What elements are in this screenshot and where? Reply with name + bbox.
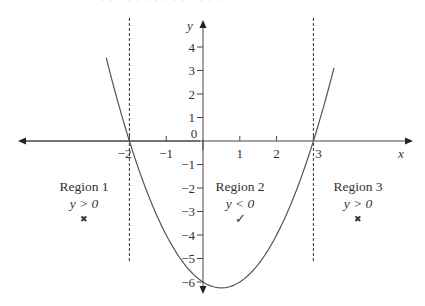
- y-tick-label: −1: [181, 157, 195, 172]
- y-tick-label: −5: [181, 251, 195, 266]
- graph-diagram: −2−10123 4321−1−2−3−4−5−6 x y Region 1 y…: [0, 0, 425, 306]
- x-tick-label: 3: [315, 146, 322, 161]
- parabola-curve: [106, 58, 334, 288]
- y-tick-label: 4: [189, 40, 196, 55]
- check-icon: ✓: [235, 211, 246, 226]
- x-tick-label: −1: [159, 146, 173, 161]
- region-1-name: Region 1: [59, 179, 108, 194]
- region-1-condition: y > 0: [68, 196, 99, 211]
- x-tick-label: 2: [273, 146, 280, 161]
- y-axis-label: y: [185, 18, 193, 33]
- y-axis-ticks: 4321−1−2−3−4−5−6: [181, 40, 203, 290]
- y-tick-label: 2: [189, 87, 196, 102]
- region-1: Region 1 y > 0 ✖: [59, 179, 108, 224]
- region-3-condition: y > 0: [342, 196, 373, 211]
- x-axis-label: x: [397, 146, 404, 161]
- cross-icon: ✖: [354, 214, 362, 224]
- y-tick-label: 1: [189, 110, 196, 125]
- y-tick-label: −2: [181, 181, 195, 196]
- region-3-name: Region 3: [333, 179, 382, 194]
- region-3: Region 3 y > 0 ✖: [333, 179, 382, 224]
- y-tick-label: −4: [181, 228, 195, 243]
- region-2: Region 2 y < 0 ✓: [215, 179, 264, 226]
- y-tick-label: 3: [189, 63, 196, 78]
- boundary-lines: [129, 18, 313, 262]
- y-tick-label: −3: [181, 204, 195, 219]
- cross-icon: ✖: [80, 214, 88, 224]
- x-tick-label: 0: [191, 126, 198, 141]
- region-2-condition: y < 0: [224, 196, 255, 211]
- x-tick-label: 1: [237, 146, 244, 161]
- region-2-name: Region 2: [215, 179, 264, 194]
- y-tick-label: −6: [181, 275, 195, 290]
- x-axis-ticks: −2−10123: [118, 126, 322, 161]
